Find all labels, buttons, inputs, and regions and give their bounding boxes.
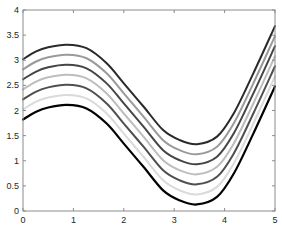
y-tick-label: 2 xyxy=(14,106,19,116)
x-tick-label: 1 xyxy=(71,215,76,225)
axis-ticks xyxy=(23,10,275,211)
chart-canvas: 012345 00.511.522.533.54 xyxy=(0,0,282,229)
plot-area-frame xyxy=(23,10,275,211)
y-tick-label: 4 xyxy=(14,5,19,15)
y-axis-tick-labels: 00.511.522.533.54 xyxy=(6,5,19,216)
y-tick-label: 1.5 xyxy=(6,131,19,141)
y-tick-label: 3.5 xyxy=(6,30,19,40)
x-tick-label: 2 xyxy=(121,215,126,225)
y-tick-label: 0.5 xyxy=(6,181,19,191)
y-tick-label: 3 xyxy=(14,55,19,65)
x-tick-label: 0 xyxy=(20,215,25,225)
x-axis-tick-labels: 012345 xyxy=(20,215,277,225)
x-tick-label: 5 xyxy=(272,215,277,225)
y-tick-label: 0 xyxy=(14,206,19,216)
series-layer xyxy=(23,26,275,204)
x-tick-label: 3 xyxy=(172,215,177,225)
y-tick-label: 1 xyxy=(14,156,19,166)
y-tick-label: 2.5 xyxy=(6,80,19,90)
line-chart: 012345 00.511.522.533.54 xyxy=(0,0,282,229)
x-tick-label: 4 xyxy=(222,215,227,225)
